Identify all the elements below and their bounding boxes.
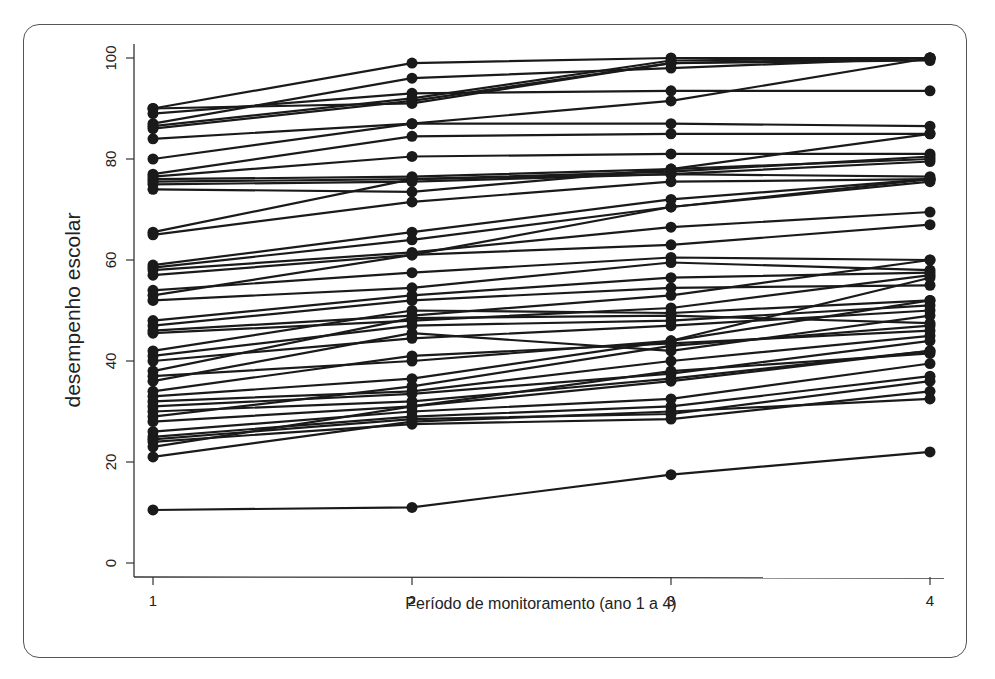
data-point [925, 219, 936, 230]
data-point [148, 270, 159, 281]
data-point [666, 128, 677, 139]
data-point [666, 310, 677, 321]
series-line [153, 124, 930, 139]
data-point [407, 118, 418, 129]
y-tick-label: 100 [102, 45, 119, 70]
data-point [407, 174, 418, 185]
data-point [148, 441, 159, 452]
data-point [666, 118, 677, 129]
data-point [148, 416, 159, 427]
data-point [925, 358, 936, 369]
series-line [153, 58, 930, 109]
x-tick-label: 1 [149, 592, 157, 609]
data-point [925, 207, 936, 218]
data-point [407, 502, 418, 513]
data-point [407, 93, 418, 104]
data-point [148, 451, 159, 462]
y-tick-label: 40 [102, 353, 119, 370]
data-point [666, 239, 677, 250]
data-point [666, 290, 677, 301]
y-tick-label: 0 [102, 559, 119, 567]
data-point [148, 133, 159, 144]
data-point [407, 151, 418, 162]
data-point [666, 222, 677, 233]
x-tick-label: 4 [926, 592, 934, 609]
data-point [407, 313, 418, 324]
data-point [925, 376, 936, 387]
data-point [407, 381, 418, 392]
data-point [407, 328, 418, 339]
data-point [148, 356, 159, 367]
data-point [666, 272, 677, 283]
data-point [407, 196, 418, 207]
data-point [666, 469, 677, 480]
data-point [407, 73, 418, 84]
line-chart: 0204060801001234 desempenho escolar Perí… [0, 0, 995, 679]
data-point [925, 156, 936, 167]
data-point [666, 356, 677, 367]
data-point [666, 366, 677, 377]
data-point [407, 186, 418, 197]
data-point [666, 257, 677, 268]
data-point [925, 53, 936, 64]
data-point [148, 328, 159, 339]
series-line [153, 182, 930, 296]
data-point [148, 229, 159, 240]
data-point [666, 95, 677, 106]
data-point [666, 148, 677, 159]
data-point [407, 416, 418, 427]
data-point [925, 335, 936, 346]
data-point [666, 320, 677, 331]
data-point [666, 406, 677, 417]
data-point [666, 340, 677, 351]
series-points [148, 53, 936, 516]
data-point [925, 320, 936, 331]
data-point [666, 85, 677, 96]
data-point [925, 255, 936, 266]
data-point [148, 504, 159, 515]
y-tick-label: 80 [102, 151, 119, 168]
data-point [407, 234, 418, 245]
data-point [148, 295, 159, 306]
data-point [666, 201, 677, 212]
data-point [925, 446, 936, 457]
data-point [925, 345, 936, 356]
data-point [925, 176, 936, 187]
y-tick-label: 60 [102, 252, 119, 269]
series-line [153, 452, 930, 510]
data-point [407, 267, 418, 278]
data-point [925, 295, 936, 306]
y-axis-title: desempenho escolar [61, 213, 84, 408]
data-point [407, 58, 418, 69]
data-point [148, 121, 159, 132]
data-point [148, 154, 159, 165]
y-tick-label: 20 [102, 454, 119, 471]
data-point [148, 376, 159, 387]
data-point [666, 376, 677, 387]
series-line [153, 316, 930, 382]
series-lines [153, 58, 930, 510]
data-point [925, 85, 936, 96]
data-point [407, 295, 418, 306]
data-point [925, 272, 936, 283]
data-point [407, 249, 418, 260]
series-line [153, 61, 930, 129]
data-point [148, 184, 159, 195]
data-point [148, 108, 159, 119]
data-point [407, 350, 418, 361]
data-point [925, 310, 936, 321]
data-point [407, 401, 418, 412]
x-axis-title: Período de monitoramento (ano 1 a 4) [405, 595, 676, 612]
data-point [666, 176, 677, 187]
data-point [407, 131, 418, 142]
data-point [666, 55, 677, 66]
data-point [925, 128, 936, 139]
x-axis-line [134, 577, 944, 578]
data-point [925, 393, 936, 404]
